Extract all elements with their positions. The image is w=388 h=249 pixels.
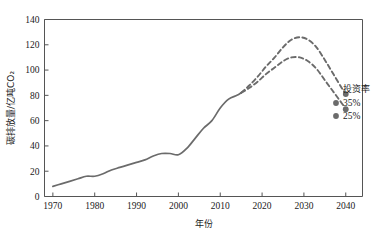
legend-title: 投资率: [343, 83, 370, 94]
legend-label-35pct: 35%: [343, 98, 361, 108]
x-tick-label: 2000: [169, 201, 188, 211]
y-tick-label: 40: [30, 141, 40, 151]
x-tick-label: 1980: [85, 201, 104, 211]
y-tick-label: 60: [30, 116, 40, 126]
x-axis-title: 年份: [195, 218, 213, 229]
x-tick-label: 1970: [43, 201, 62, 211]
legend-marker-25pct: [333, 113, 339, 119]
carbon-emission-chart: 020406080100120140 197019801990200020102…: [0, 0, 388, 249]
chart-canvas: 020406080100120140 197019801990200020102…: [0, 0, 388, 249]
x-tick-label: 1990: [127, 201, 146, 211]
x-axis-ticks: 19701980199020002010202020302040: [43, 193, 355, 211]
x-tick-label: 2020: [253, 201, 272, 211]
legend-label-25pct: 25%: [343, 111, 361, 121]
y-tick-label: 140: [25, 15, 40, 25]
chart-legend: 投资率35%25%: [333, 83, 370, 121]
y-tick-label: 20: [30, 167, 40, 177]
series-line: [241, 37, 346, 94]
y-tick-label: 120: [25, 40, 40, 50]
y-axis-ticks: 020406080100120140: [25, 15, 48, 202]
series-line: [53, 93, 241, 187]
series-line: [241, 57, 346, 109]
legend-marker-35pct: [333, 100, 339, 106]
y-tick-label: 0: [35, 192, 40, 202]
x-tick-label: 2010: [211, 201, 230, 211]
x-tick-label: 2040: [336, 201, 355, 211]
y-axis-title: 碳排放量/亿吨CO₂: [5, 71, 16, 145]
y-tick-label: 80: [30, 91, 40, 101]
x-tick-label: 2030: [294, 201, 313, 211]
data-series-layer: [53, 37, 349, 186]
y-tick-label: 100: [25, 65, 40, 75]
